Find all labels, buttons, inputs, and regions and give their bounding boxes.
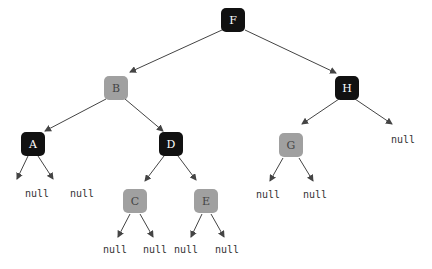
null-leaf: null [303, 189, 327, 200]
edge-arrow [125, 99, 163, 131]
null-leaf: null [256, 189, 280, 200]
null-leaf: null [143, 244, 167, 255]
tree-node-b: B [104, 76, 128, 100]
tree-node-e: E [194, 189, 218, 213]
null-leaf: null [174, 244, 198, 255]
null-leaf: null [25, 188, 49, 199]
edge-arrow [245, 30, 336, 73]
tree-node-c: C [123, 189, 147, 213]
node-label: G [287, 139, 296, 152]
node-label: E [202, 195, 210, 208]
edge-arrow [130, 30, 222, 72]
edge-arrow [211, 214, 224, 237]
tree-node-a: A [21, 132, 45, 156]
edge-arrow [178, 156, 196, 180]
tree-node-h: H [335, 76, 359, 100]
null-leaves-layer: nullnullnullnullnullnullnullnullnull [25, 134, 415, 255]
edge-arrow [140, 214, 153, 237]
node-label: H [342, 82, 352, 95]
null-leaf: null [103, 244, 127, 255]
edge-arrow [118, 214, 130, 237]
node-label: A [28, 138, 38, 151]
node-label: B [112, 82, 120, 95]
null-leaf: null [215, 244, 239, 255]
tree-node-f: F [221, 8, 245, 32]
node-label: F [229, 14, 237, 27]
tree-node-d: D [159, 132, 183, 156]
edge-arrow [17, 156, 28, 179]
edge-arrow [355, 99, 392, 124]
edge-arrow [270, 158, 283, 181]
tree-node-g: G [279, 133, 303, 157]
edge-arrow [45, 99, 106, 131]
nodes-layer: FBHADGCE [21, 8, 359, 213]
edge-arrow [302, 99, 339, 124]
edge-arrow [299, 158, 313, 181]
tree-diagram: FBHADGCE nullnullnullnullnullnullnullnul… [0, 0, 432, 269]
edge-arrow [191, 214, 202, 237]
node-label: C [131, 195, 139, 208]
edge-arrow [145, 156, 164, 181]
edge-arrow [38, 156, 53, 179]
null-leaf: null [70, 188, 94, 199]
null-leaf: null [391, 134, 415, 145]
node-label: D [167, 138, 176, 151]
